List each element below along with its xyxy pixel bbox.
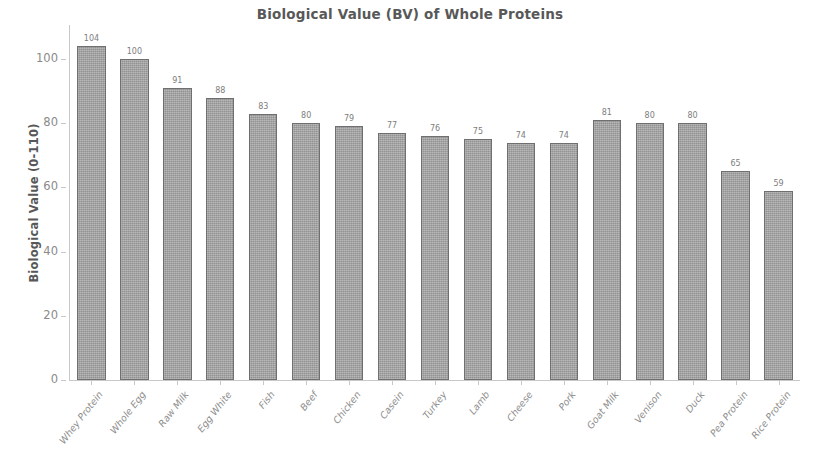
y-axis-tick-mark [61,380,66,381]
y-axis-tick-mark [61,187,66,188]
bar-value-label: 74 [559,131,569,140]
bar-value-label: 80 [688,111,698,120]
bar-group[interactable]: 77 [378,27,406,380]
bar[interactable] [721,171,749,380]
x-axis-tick-label: Rice Protein [748,389,792,441]
x-axis-tick-mark [435,381,436,385]
bar-group[interactable]: 91 [163,27,191,380]
y-axis-tick-label: 60 [43,179,58,193]
bar[interactable] [378,133,406,380]
x-axis-tick-mark [134,381,135,385]
x-axis-tick-label: Casein [377,389,405,421]
x-axis-tick-label: Turkey [420,389,448,421]
bar[interactable] [464,139,492,380]
chart-title: Biological Value (BV) of Whole Proteins [0,6,820,22]
x-axis-tick-label: Raw Milk [156,389,191,429]
bar[interactable] [550,143,578,380]
x-axis-tick-mark [478,381,479,385]
bar-group[interactable]: 76 [421,27,449,380]
bar-group[interactable]: 100 [120,27,148,380]
x-axis-tick-mark [349,381,350,385]
bar[interactable] [335,126,363,380]
y-axis-label: Biological Value (0-110) [27,73,41,333]
x-axis-tick-label: Chicken [331,389,363,426]
x-axis-tick-label: Lamb [467,389,492,417]
bar-value-label: 91 [172,76,182,85]
bar-value-label: 75 [473,127,483,136]
bar-group[interactable]: 74 [507,27,535,380]
y-axis-tick-label: 100 [36,51,58,65]
x-axis-tick-mark [564,381,565,385]
bar-group[interactable]: 80 [678,27,706,380]
plot-area: 104100918883807977767574748180806559 [70,27,800,380]
y-axis-tick-label: 20 [43,308,58,322]
x-axis-tick-mark [91,381,92,385]
y-axis-tick-label: 0 [51,372,58,386]
x-axis-tick-mark [306,381,307,385]
bar-group[interactable]: 83 [249,27,277,380]
bar-group[interactable]: 81 [593,27,621,380]
x-axis-tick-label: Fish [256,389,276,411]
y-axis-tick-mark [61,252,66,253]
bar-value-label: 81 [602,108,612,117]
bar-value-label: 65 [730,159,740,168]
x-axis-tick-mark [177,381,178,385]
bar[interactable] [764,191,792,380]
bar[interactable] [292,123,320,380]
bar-group[interactable]: 59 [764,27,792,380]
bar-group[interactable]: 74 [550,27,578,380]
bar-value-label: 80 [301,111,311,120]
bar[interactable] [249,114,277,380]
y-axis-tick-mark [61,59,66,60]
bar-group[interactable]: 80 [292,27,320,380]
bar-value-label: 83 [258,102,268,111]
bar-group[interactable]: 104 [77,27,105,380]
x-axis-tick-label: Goat Milk [584,389,620,431]
bar-chart: Biological Value (BV) of Whole Proteins … [0,0,820,462]
x-axis-tick-label: Cheese [504,389,534,423]
y-axis-tick-mark [61,123,66,124]
bar-value-label: 104 [84,34,99,43]
x-axis-tick-mark [736,381,737,385]
x-axis-tick-mark [263,381,264,385]
x-axis-tick-label: Beef [298,389,320,413]
x-axis-tick-mark [693,381,694,385]
x-axis-tick-label: Whey Protein [57,389,105,446]
bar-value-label: 77 [387,121,397,130]
bar[interactable] [636,123,664,380]
bar-value-label: 88 [215,86,225,95]
x-axis-tick-label: Egg White [195,389,234,434]
bar-value-label: 59 [773,179,783,188]
bar-value-label: 74 [516,131,526,140]
x-axis-tick-label: Pork [556,389,578,412]
y-axis-tick-label: 40 [43,244,58,258]
bar[interactable] [593,120,621,380]
bar-value-label: 100 [127,47,142,56]
x-axis-tick-label: Whole Egg [108,389,148,436]
bar[interactable] [678,123,706,380]
bar-group[interactable]: 65 [721,27,749,380]
bar[interactable] [507,143,535,380]
y-axis-tick-mark [61,316,66,317]
bar-group[interactable]: 79 [335,27,363,380]
bar[interactable] [77,46,105,380]
bar[interactable] [206,98,234,380]
x-axis-tick-label: Duck [683,389,706,415]
bar[interactable] [120,59,148,380]
x-axis-tick-mark [521,381,522,385]
bar-group[interactable]: 75 [464,27,492,380]
x-axis-tick-label: Pea Protein [707,389,749,438]
bar-group[interactable]: 88 [206,27,234,380]
bar-value-label: 80 [645,111,655,120]
x-axis-tick-mark [607,381,608,385]
bar-value-label: 76 [430,124,440,133]
x-axis-tick-label: Venison [632,389,664,425]
x-axis-tick-mark [650,381,651,385]
x-axis-tick-mark [392,381,393,385]
bar-value-label: 79 [344,114,354,123]
y-axis-tick-label: 80 [43,115,58,129]
bar-group[interactable]: 80 [636,27,664,380]
x-axis-tick-mark [220,381,221,385]
bar[interactable] [421,136,449,380]
bar[interactable] [163,88,191,380]
